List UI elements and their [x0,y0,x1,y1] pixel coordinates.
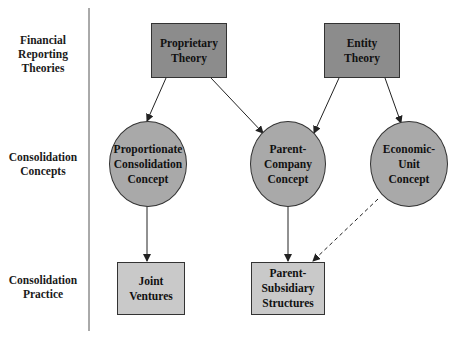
node-parent-company-concept: Parent- Company Concept [250,121,326,207]
node-proportionate-concept: Proportionate Consolidation Concept [109,121,187,207]
node-parent-subsidiary: Parent- Subsidiary Structures [251,262,325,315]
edge-entity-to-economic-unit [385,78,401,123]
row-label-practice: Consolidation Practice [0,273,86,301]
row-label-concepts: Consolidation Concepts [0,150,86,178]
node-proprietary-theory: Proprietary Theory [151,23,227,78]
node-joint-ventures: Joint Ventures [117,262,185,315]
edge-entity-to-parent-company [314,78,339,133]
node-economic-unit-concept: Economic- Unit Concept [370,121,448,207]
consolidation-diagram: Financial Reporting Theories Consolidati… [0,0,469,339]
edge-proprietary-to-parent-company [211,78,263,133]
edge-economic-unit-to-parent-subsidiary [313,199,378,261]
node-entity-theory: Entity Theory [324,23,400,78]
row-label-theories: Financial Reporting Theories [0,33,86,75]
edge-proprietary-to-proportionate [147,78,166,121]
